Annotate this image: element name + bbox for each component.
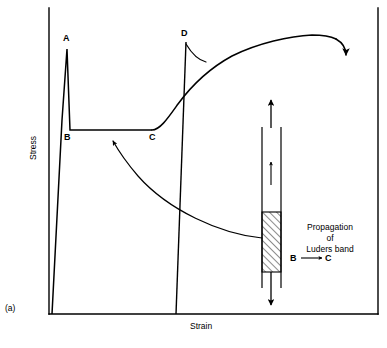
unloading-line-at-D xyxy=(176,42,186,314)
work-hardening-curve xyxy=(152,35,336,130)
luders-band-annotation: Propagation of Luders band xyxy=(284,222,376,255)
y-axis-label-stress: Stress xyxy=(29,136,38,160)
annotation-line-propagation: Propagation xyxy=(284,222,376,233)
tensile-specimen-group xyxy=(262,100,281,305)
annotation-b-marker: B xyxy=(290,254,297,263)
luders-band-pointer-arrow xyxy=(113,141,262,238)
figure-drawing xyxy=(0,0,387,348)
annotation-c-marker: C xyxy=(325,254,332,263)
luders-band-hatched xyxy=(262,212,281,272)
curve-point-label-a: A xyxy=(63,34,70,43)
curve-point-label-b: B xyxy=(64,133,71,142)
annotation-line-of: of xyxy=(284,233,376,244)
necking-indicator-arrow xyxy=(336,39,346,55)
curve-point-label-d: D xyxy=(181,29,188,38)
elastic-and-yield-drop xyxy=(52,49,152,314)
panel-label-a: (a) xyxy=(5,304,15,313)
x-axis-label-strain: Strain xyxy=(190,322,212,331)
d-point-callout-arrow xyxy=(186,44,206,62)
curve-point-label-c: C xyxy=(149,133,156,142)
stress-strain-curve-group xyxy=(52,35,346,314)
axes-group xyxy=(49,8,378,314)
stress-strain-figure: A B C D Stress Strain (a) Propagation of… xyxy=(0,0,387,348)
